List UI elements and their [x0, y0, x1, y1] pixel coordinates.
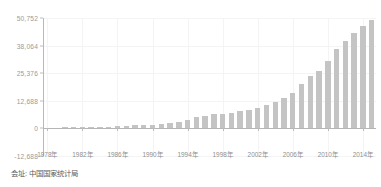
x-axis-tick-label: 1998年: [213, 150, 233, 159]
y-axis-tick-label: 38,064: [17, 42, 38, 49]
x-axis-tick-label: 2014年: [353, 150, 373, 159]
bar: [334, 49, 339, 128]
x-axis-tick-label: 2006年: [283, 150, 303, 159]
bar: [316, 71, 321, 128]
y-axis-tick-label: 12,688: [17, 97, 38, 104]
bar: [202, 116, 207, 129]
bar: [281, 98, 286, 129]
x-axis-tick-mark: [117, 128, 118, 131]
bar: [351, 33, 356, 128]
y-axis-tick-mark: [40, 73, 43, 74]
x-axis-line: [43, 128, 376, 129]
x-axis-tick-mark: [328, 128, 329, 131]
bar: [237, 111, 242, 128]
bar: [290, 93, 295, 129]
x-axis-tick-label: 1994年: [177, 150, 197, 159]
bar: [220, 114, 225, 129]
y-axis-tick-mark: [40, 18, 43, 19]
bar: [211, 114, 216, 128]
plot-area: [43, 18, 376, 156]
bar: [255, 108, 260, 128]
x-axis-tick-mark: [188, 128, 189, 131]
bar: [369, 20, 374, 129]
chart-figure: 50,75238,06425,37612,6880-12,688 1978年19…: [0, 0, 381, 187]
x-axis-tick-label: 2002年: [248, 150, 268, 159]
x-axis-tick-mark: [223, 128, 224, 131]
bar: [264, 105, 269, 128]
bar: [299, 84, 304, 129]
x-axis-tick-mark: [82, 128, 83, 131]
y-axis-tick-label: 25,376: [17, 70, 38, 77]
x-axis-tick-label: 1990年: [142, 150, 162, 159]
bar-series: [43, 18, 376, 156]
y-axis-tick-mark: [40, 100, 43, 101]
x-axis-tick-mark: [363, 128, 364, 131]
bar: [308, 76, 313, 128]
bar: [360, 26, 365, 129]
x-axis-tick-mark: [153, 128, 154, 131]
bar: [343, 41, 348, 128]
bar: [229, 113, 234, 129]
x-axis-tick-mark: [47, 128, 48, 131]
bar: [325, 61, 330, 128]
x-axis-tick-label: 1978年: [37, 150, 57, 159]
y-axis-tick-label: -12,688: [14, 153, 38, 160]
x-axis-tick-label: 1982年: [72, 150, 92, 159]
x-axis-tick-label: 2010年: [318, 150, 338, 159]
y-axis-tick-label: 50,752: [17, 15, 38, 22]
y-axis-tick-mark: [40, 128, 43, 129]
bar: [185, 120, 190, 129]
x-axis-tick-label: 1986年: [107, 150, 127, 159]
source-caption: 会址: 中国国家统计局: [11, 167, 78, 178]
y-axis-tick-label: 0: [34, 125, 38, 132]
y-axis-tick-mark: [40, 45, 43, 46]
x-axis-tick-mark: [293, 128, 294, 131]
bar: [194, 117, 199, 128]
bar: [246, 110, 251, 129]
y-axis-line: [43, 18, 44, 156]
bar: [273, 102, 278, 129]
x-axis-tick-mark: [258, 128, 259, 131]
